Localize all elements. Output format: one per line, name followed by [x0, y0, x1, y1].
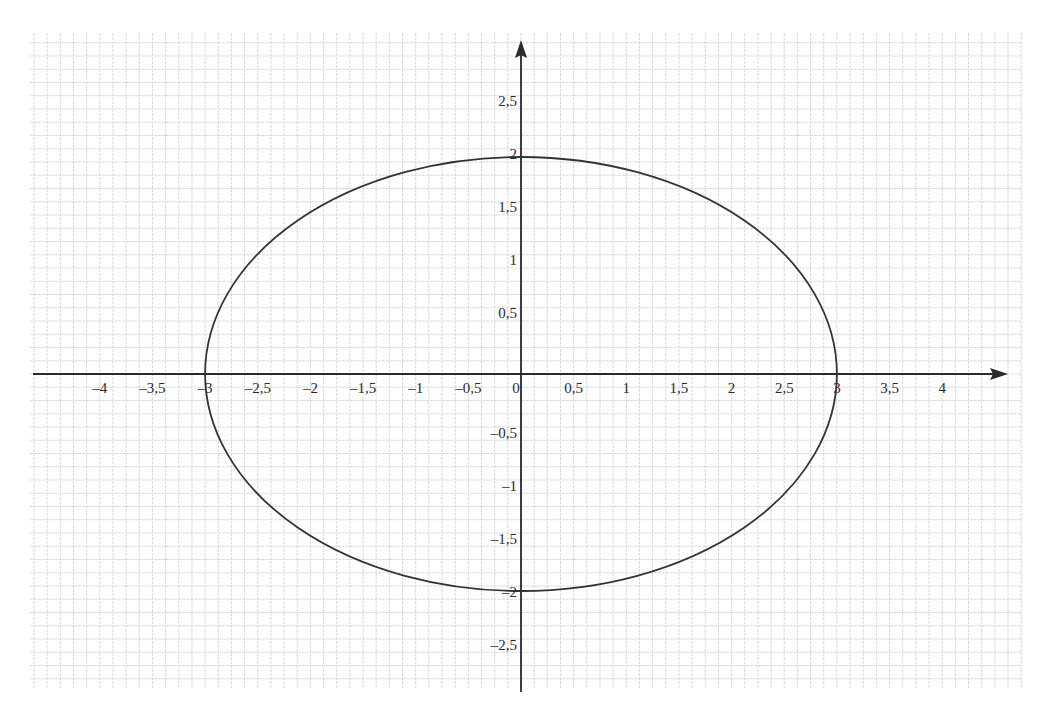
axes — [33, 40, 1008, 692]
y-tick-label: 1 — [510, 252, 518, 268]
x-tick-label: 3,5 — [880, 380, 899, 396]
y-tick-label: –1,5 — [490, 531, 517, 547]
x-tick-label: 0,5 — [564, 380, 583, 396]
x-tick-label: 2,5 — [775, 380, 794, 396]
y-tick-label: 1,5 — [498, 199, 517, 215]
x-tick-label: –1,5 — [349, 380, 376, 396]
x-axis-tick-labels: –4–3,5–3–2,5–2–1,5–1–0,500,511,522,533,5… — [91, 380, 946, 396]
y-axis-tick-labels: 2,521,510,5–0,5–1–1,5–2–2,5 — [490, 93, 517, 653]
y-tick-label: –2,5 — [490, 637, 517, 653]
x-tick-label: 4 — [938, 380, 946, 396]
chart-plot-area: –4–3,5–3–2,5–2–1,5–1–0,500,511,522,533,5… — [0, 0, 1055, 723]
x-tick-label: 0 — [512, 380, 520, 396]
y-tick-label: 0,5 — [498, 305, 517, 321]
grid-lines — [30, 33, 1022, 688]
x-tick-label: 1,5 — [670, 380, 689, 396]
y-tick-label: –1 — [501, 478, 517, 494]
y-tick-label: –0,5 — [490, 425, 517, 441]
y-tick-label: 2 — [510, 146, 518, 162]
x-tick-label: 2 — [728, 380, 736, 396]
x-tick-label: 1 — [623, 380, 631, 396]
x-tick-label: –1 — [407, 380, 423, 396]
x-tick-label: –2,5 — [244, 380, 271, 396]
x-tick-label: –3 — [197, 380, 213, 396]
x-tick-label: 3 — [833, 380, 841, 396]
x-tick-label: –3,5 — [138, 380, 165, 396]
y-tick-label: 2,5 — [498, 93, 517, 109]
y-tick-label: –2 — [501, 584, 517, 600]
x-tick-label: –4 — [91, 380, 108, 396]
x-tick-label: –2 — [302, 380, 318, 396]
x-tick-label: –0,5 — [454, 380, 481, 396]
